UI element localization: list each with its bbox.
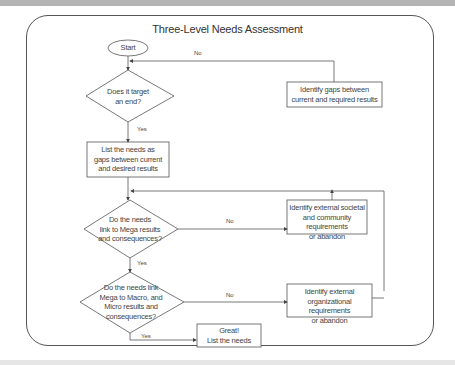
edge-label-d3-yes: Yes <box>141 333 151 339</box>
edge-label-d2-yes: Yes <box>137 260 147 266</box>
flowchart-shapes <box>0 0 455 365</box>
bottom-band <box>0 360 455 365</box>
edge-label-d1-yes: Yes <box>137 126 147 132</box>
start-label: Start <box>108 43 148 53</box>
edge-label-d1-no: No <box>194 50 202 56</box>
identify-gaps-label: Identify gaps between current and requir… <box>287 85 382 104</box>
decision-3-label: Do the needs link Mega to Macro, and Mic… <box>95 283 167 321</box>
decision-1-label: Does it target an end? <box>98 87 158 106</box>
decision-2-label: Do the needs link to Mega results and co… <box>95 215 165 244</box>
edge-label-d3-no: No <box>226 292 234 298</box>
identify-societal-label: Identify external societal and community… <box>287 203 367 241</box>
edge-label-d2-no: No <box>226 218 234 224</box>
list-needs-label: List the needs as gaps between current a… <box>87 145 169 174</box>
identify-org-label: Identify external organizational require… <box>287 287 372 325</box>
great-label: Great! List the needs <box>197 326 261 345</box>
